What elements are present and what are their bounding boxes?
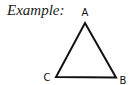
triangle-shape: [56, 23, 116, 78]
triangle-diagram: A B C: [0, 0, 129, 85]
vertex-label-a: A: [82, 7, 89, 18]
vertex-label-b: B: [120, 75, 127, 85]
vertex-label-c: C: [44, 72, 51, 83]
